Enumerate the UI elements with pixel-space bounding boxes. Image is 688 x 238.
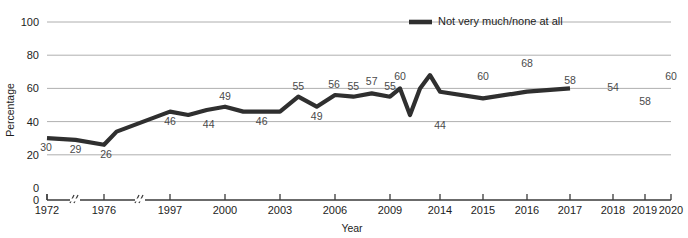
- data-point-label: 60: [477, 70, 489, 82]
- data-point-label: 68: [521, 57, 533, 69]
- x-axis-tick-label: 1972: [35, 204, 59, 216]
- line-chart: 0204060801000 Percentage 197219761997200…: [0, 0, 688, 238]
- data-point-label: 60: [394, 70, 406, 82]
- data-point-label: 46: [164, 115, 176, 127]
- x-axis-tick-label: 1976: [92, 204, 116, 216]
- data-point-label: 55: [347, 80, 359, 92]
- y-axis-tick-label: 80: [27, 49, 39, 61]
- x-axis-tick-labels: 1972197619972000200320062009201420152016…: [35, 204, 683, 216]
- data-point-label: 56: [328, 78, 340, 90]
- x-axis-tick-label: 2018: [601, 204, 625, 216]
- x-axis-tick-label: 2003: [268, 204, 292, 216]
- legend: Not very much/none at all: [409, 15, 563, 27]
- x-axis-tick-label: 2016: [515, 204, 539, 216]
- data-point-labels-group: 3029264644494655495655575560446068585458…: [40, 57, 677, 160]
- y-axis-tick-label: 0: [33, 182, 39, 194]
- x-axis-tick-label: 1997: [158, 204, 182, 216]
- data-point-label: 54: [607, 81, 619, 93]
- data-point-label: 30: [40, 141, 52, 153]
- x-axis-title: Year: [341, 222, 363, 234]
- data-line-not-very-much-none-at-all: [47, 75, 570, 145]
- x-axis-tick-label: 2000: [213, 204, 237, 216]
- data-point-label: 49: [219, 90, 231, 102]
- data-point-label: 49: [311, 110, 323, 122]
- legend-label: Not very much/none at all: [438, 15, 563, 27]
- x-axis-tick-label: 2009: [378, 204, 402, 216]
- data-point-label: 58: [564, 74, 576, 86]
- x-axis-group: [47, 194, 671, 203]
- data-point-label: 57: [366, 75, 378, 87]
- x-axis-tick-label: 2019: [633, 204, 657, 216]
- y-axis-tick-label: 20: [27, 149, 39, 161]
- data-point-label: 29: [70, 143, 82, 155]
- x-axis-tick-label: 2006: [323, 204, 347, 216]
- data-point-label: 60: [665, 70, 677, 82]
- data-point-label: 46: [256, 115, 268, 127]
- x-axis-tick-label: 2015: [471, 204, 495, 216]
- data-point-label: 26: [100, 148, 112, 160]
- y-axis-title: Percentage: [4, 83, 16, 137]
- data-point-label: 44: [434, 119, 446, 131]
- data-point-label: 55: [292, 80, 304, 92]
- y-axis-tick-label: 60: [27, 82, 39, 94]
- y-axis-tick-labels: 0204060801000: [21, 16, 39, 206]
- data-point-label: 44: [203, 118, 215, 130]
- y-axis-tick-label: 100: [21, 16, 39, 28]
- x-axis-tick-label: 2014: [428, 204, 452, 216]
- chart-container: 0204060801000 Percentage 197219761997200…: [0, 0, 688, 238]
- data-point-label: 58: [639, 95, 651, 107]
- y-axis-tick-label: 40: [27, 116, 39, 128]
- x-axis-tick-label: 2020: [659, 204, 683, 216]
- x-axis-tick-label: 2017: [558, 204, 582, 216]
